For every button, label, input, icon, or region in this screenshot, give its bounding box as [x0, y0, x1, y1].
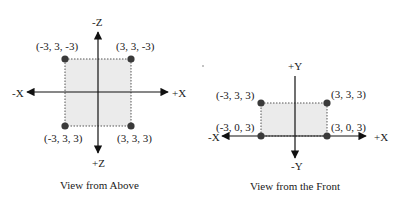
front-view-diagram — [202, 65, 366, 158]
top-view-point-1 — [61, 55, 68, 62]
top-view-neg-z-label: -Z — [92, 16, 102, 28]
front-view-neg-y-label: -Y — [291, 160, 303, 172]
top-view-point-1-label: (-3, 3, -3) — [36, 40, 78, 52]
top-view-pos-z-label: +Z — [92, 157, 105, 169]
front-view-point-3 — [257, 132, 264, 139]
front-view-point-4-label: (3, 0, 3) — [331, 121, 366, 133]
front-view-point-2 — [323, 99, 330, 106]
front-view-caption: View from the Front — [250, 180, 340, 192]
top-view-point-3 — [61, 122, 68, 129]
front-view-pos-y-label: +Y — [288, 60, 302, 72]
top-view-point-4-label: (3, 3, 3) — [117, 132, 152, 144]
top-view-point-4 — [127, 122, 134, 129]
front-view-point-3-label: (-3, 0, 3) — [216, 121, 255, 133]
front-view-point-1-label: (-3, 3, 3) — [216, 89, 255, 101]
front-view-pos-x-label: +X — [374, 131, 388, 143]
front-view-point-2-label: (3, 3, 3) — [331, 88, 366, 100]
top-view-neg-x-label: -X — [12, 87, 24, 99]
front-view-shaded-rect — [261, 103, 327, 136]
top-view-point-2-label: (3, 3, -3) — [116, 40, 155, 52]
stray-dot — [202, 65, 204, 67]
front-view-point-4 — [323, 132, 330, 139]
top-view-point-3-label: (-3, 3, 3) — [44, 132, 83, 144]
front-view-point-1 — [257, 99, 264, 106]
top-view-caption: View from Above — [60, 179, 139, 191]
diagram-canvas — [0, 0, 402, 201]
top-view-pos-x-label: +X — [172, 87, 186, 99]
top-view-point-2 — [127, 55, 134, 62]
